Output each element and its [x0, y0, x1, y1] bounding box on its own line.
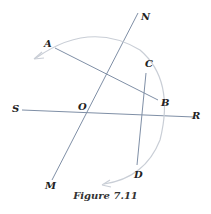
label-B: B	[161, 97, 169, 108]
label-A: A	[44, 38, 52, 49]
segment-AB	[55, 48, 158, 100]
geometry-diagram	[0, 0, 211, 214]
line-SR	[22, 110, 194, 117]
label-C: C	[145, 58, 153, 69]
label-O: O	[78, 101, 87, 112]
line-MN	[52, 13, 138, 180]
label-D: D	[134, 169, 143, 180]
figure-caption: Figure 7.11	[0, 190, 211, 201]
segment-CD	[137, 73, 146, 165]
label-N: N	[141, 11, 150, 22]
label-S: S	[12, 103, 19, 114]
label-R: R	[192, 110, 200, 121]
